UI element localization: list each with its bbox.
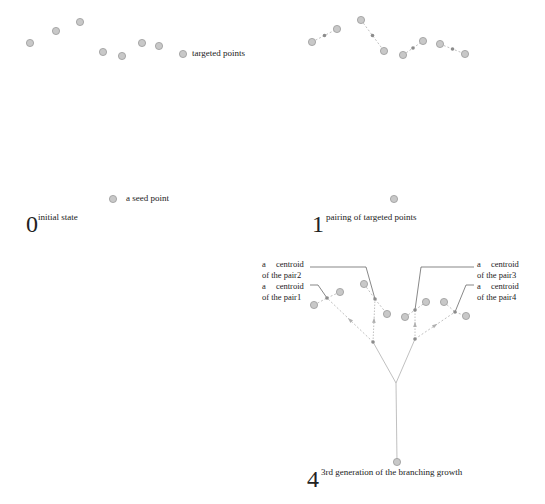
centroid-label-pair4: a centroid of the pair4 xyxy=(477,281,519,303)
target-point xyxy=(310,301,317,308)
target-point xyxy=(99,48,106,55)
branch-node xyxy=(413,337,417,341)
panel-0-title: 0initial state xyxy=(26,212,78,236)
panel-1-caption: pairing of targeted points xyxy=(326,212,417,222)
target-point xyxy=(138,39,145,46)
points-layer xyxy=(26,16,469,465)
panel-1-number: 1 xyxy=(312,211,324,237)
target-point xyxy=(461,50,468,57)
branch-node xyxy=(371,340,375,344)
target-point xyxy=(422,298,429,305)
panel-0-caption: initial state xyxy=(38,212,78,222)
pair-centroid xyxy=(453,310,457,314)
target-point xyxy=(179,50,186,57)
trunk-line xyxy=(396,383,397,462)
pair-centroid xyxy=(413,308,417,312)
target-point xyxy=(419,37,426,44)
pair-centroid xyxy=(371,34,375,38)
target-point xyxy=(383,310,390,317)
target-point xyxy=(76,18,83,25)
connection-lines xyxy=(310,20,474,462)
centroid-label-pair1: a centroid of the pair1 xyxy=(262,281,304,303)
target-point xyxy=(440,298,447,305)
target-point xyxy=(308,38,315,45)
pair-centroid xyxy=(411,46,415,50)
target-point xyxy=(52,27,59,34)
target-point xyxy=(462,312,469,319)
diagram-canvas xyxy=(0,0,545,504)
target-point xyxy=(401,313,408,320)
growth-arrow xyxy=(372,318,376,323)
target-point xyxy=(155,42,162,49)
target-point xyxy=(333,25,340,32)
target-point xyxy=(380,47,387,54)
panel-4-number: 4 xyxy=(307,466,319,492)
target-point xyxy=(118,52,125,59)
pair-centroid xyxy=(323,34,327,38)
branch-line xyxy=(373,342,396,383)
pair-centroid xyxy=(451,47,455,51)
leader-line-pair1 xyxy=(310,285,327,298)
seed-point xyxy=(109,195,116,202)
target-point xyxy=(336,288,343,295)
panel-4-caption: 3rd generation of the branching growth xyxy=(321,467,462,477)
pair-centroid xyxy=(325,296,329,300)
centroid-label-pair3: a centroid of the pair3 xyxy=(477,259,519,281)
target-point xyxy=(436,40,443,47)
panel-0-number: 0 xyxy=(26,211,38,237)
target-point xyxy=(360,280,367,287)
branch-line xyxy=(396,339,415,383)
panel-1-title: 1pairing of targeted points xyxy=(312,212,417,236)
target-point xyxy=(357,16,364,23)
target-point xyxy=(26,39,33,46)
panel-4-title: 43rd generation of the branching growth xyxy=(307,467,462,491)
growth-arrow xyxy=(413,322,417,327)
leader-line-pair4 xyxy=(455,285,474,312)
targeted-points-label: targeted points xyxy=(192,48,245,59)
pair-centroid xyxy=(373,297,377,301)
target-point xyxy=(399,51,406,58)
centroid-label-pair2: a centroid of the pair2 xyxy=(262,259,304,281)
seed-point-label: a seed point xyxy=(126,193,169,204)
seed-point xyxy=(390,195,397,202)
seed-point xyxy=(393,458,400,465)
growth-arrow xyxy=(432,324,437,329)
